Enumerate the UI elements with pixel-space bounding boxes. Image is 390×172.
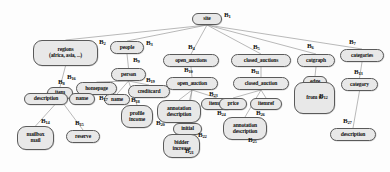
block-label-index: 3 xyxy=(150,42,152,47)
block-label-index: 14 xyxy=(45,120,49,125)
node-label: open_auction xyxy=(177,81,207,87)
block-label-b23: B23 xyxy=(209,90,217,98)
node-label: initial xyxy=(181,126,194,132)
block-label-b21: B21 xyxy=(185,147,193,155)
node-label: closed_auctions xyxy=(244,58,278,64)
block-label-b14: B14 xyxy=(41,117,49,125)
edge-site-to-regions xyxy=(66,25,208,40)
block-label-index: 22 xyxy=(202,134,206,139)
node-site[interactable]: site xyxy=(192,13,222,25)
node-people[interactable]: people xyxy=(110,41,144,54)
node-label: person xyxy=(121,72,136,78)
block-label-b16: B16 xyxy=(67,73,75,81)
block-label-index: 23 xyxy=(213,93,217,98)
block-label-index: 25 xyxy=(252,139,256,144)
node-closed_auction[interactable]: closed_auction xyxy=(233,77,289,90)
block-label-b24: B24 xyxy=(217,109,225,117)
node-name_item[interactable]: name xyxy=(69,93,95,105)
node-from_to[interactable]: from to xyxy=(294,82,335,114)
block-label-index: 11 xyxy=(255,70,259,75)
node-closed_auctions[interactable]: closed_auctions xyxy=(231,54,291,67)
node-regions[interactable]: regions(africa, asia, ...) xyxy=(33,40,98,66)
block-label-b1: B1 xyxy=(224,11,230,19)
edge-site-to-catgraph xyxy=(207,25,316,54)
node-categories[interactable]: categories xyxy=(340,49,384,62)
node-category[interactable]: category xyxy=(341,78,378,91)
node-description_item[interactable]: description xyxy=(24,93,68,105)
block-label-b5: B5 xyxy=(253,43,259,51)
node-label: (africa, asia, ...) xyxy=(49,53,82,59)
block-label-index: 9 xyxy=(137,59,139,64)
node-label: creditcard xyxy=(138,89,161,95)
node-label: open_auctions xyxy=(175,58,207,64)
block-label-b22: B22 xyxy=(198,131,206,139)
node-label: people xyxy=(120,45,134,51)
block-label-index: 19 xyxy=(150,79,154,84)
block-label-b20: B20 xyxy=(156,119,164,127)
block-label-index: 7 xyxy=(353,41,355,46)
node-profile_income[interactable]: profileincome xyxy=(121,105,153,128)
block-label-index: 1 xyxy=(228,14,230,19)
block-label-index: 4 xyxy=(192,46,194,51)
node-annotation_cl[interactable]: annotationdescription xyxy=(223,117,267,140)
block-label-index: 18 xyxy=(135,99,139,104)
node-open_auction[interactable]: open_auction xyxy=(166,77,218,90)
edge-open_auction-to-annotation_open xyxy=(179,90,192,100)
node-mailbox_mail[interactable]: mailboxmail xyxy=(17,126,54,150)
block-label-b6: B6 xyxy=(307,42,313,50)
node-label: description xyxy=(167,112,192,118)
node-label: homepage xyxy=(85,86,108,92)
block-label-index: 20 xyxy=(160,122,164,127)
block-label-b2: B2 xyxy=(99,38,105,46)
edge-closed_auction-to-price xyxy=(233,90,261,98)
node-label: mail xyxy=(31,138,41,144)
node-person[interactable]: person xyxy=(111,68,146,81)
node-label: description xyxy=(34,96,59,102)
node-label: name xyxy=(111,97,123,103)
node-label: price xyxy=(227,101,238,107)
edge-category-to-description_cat xyxy=(353,91,360,128)
node-label: itemref xyxy=(258,101,274,107)
block-label-b13: B13 xyxy=(354,68,362,76)
edge-catgraph-to-edge xyxy=(315,67,316,76)
block-label-b7: B7 xyxy=(349,38,355,46)
block-label-index: 26 xyxy=(260,112,264,117)
block-label-b18: B18 xyxy=(131,96,139,104)
node-label: reserve xyxy=(75,134,91,140)
node-reserve[interactable]: reserve xyxy=(66,130,100,143)
edge-site-to-categories xyxy=(207,25,362,49)
block-label-index: 6 xyxy=(311,45,313,50)
node-label: category xyxy=(350,82,369,88)
block-label-b25: B25 xyxy=(248,136,256,144)
node-label: description xyxy=(233,129,258,135)
node-label: name xyxy=(76,96,88,102)
block-label-index: 13 xyxy=(358,71,362,76)
block-label-b4: B4 xyxy=(188,43,194,51)
block-label-b12: B12 xyxy=(319,92,327,100)
block-label-index: 27 xyxy=(347,120,351,125)
edge-person-to-name_person xyxy=(117,81,129,94)
block-label-index: 12 xyxy=(323,95,327,100)
block-label-index: 17 xyxy=(103,97,107,102)
block-label-b19: B19 xyxy=(146,76,154,84)
node-label: site xyxy=(203,16,210,22)
node-itemref_closed[interactable]: itemref xyxy=(250,98,282,110)
block-label-b9: B9 xyxy=(133,56,139,64)
block-label-index: 21 xyxy=(189,150,193,155)
block-label-b11: B11 xyxy=(251,67,259,75)
block-label-b17: B17 xyxy=(99,94,107,102)
node-label: income xyxy=(129,117,145,123)
block-label-b27: B27 xyxy=(343,117,351,125)
schema-tree-diagram: siteregions(africa, asia, ...)peopleopen… xyxy=(0,0,390,172)
block-label-b15: B15 xyxy=(75,119,83,127)
node-bidder_increase[interactable]: bidderincrease xyxy=(163,134,200,158)
node-catgraph[interactable]: catgraph xyxy=(297,54,335,67)
block-label-index: 16 xyxy=(71,76,75,81)
edge-closed_auction-to-itemref_closed xyxy=(261,90,266,98)
block-label-b8: B8 xyxy=(58,78,64,86)
block-label-index: 2 xyxy=(103,41,105,46)
node-name_person[interactable]: name xyxy=(104,94,130,105)
node-description_cat[interactable]: description xyxy=(330,128,376,141)
node-label: catgraph xyxy=(306,58,326,64)
block-label-index: 15 xyxy=(79,122,83,127)
